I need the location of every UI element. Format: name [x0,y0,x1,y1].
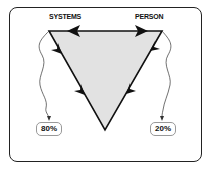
arrow-down-icon [47,116,51,121]
systems-label: SYSTEMS [49,13,81,20]
arrow-down-icon [160,116,164,121]
triangle-diagram [0,0,207,171]
person-share-badge: 20% [150,122,176,136]
systems-share-badge: 80% [36,122,62,136]
triangle-shape [49,31,162,130]
connector-line [162,31,171,118]
connector-line [39,31,49,118]
person-label: PERSON [135,13,163,20]
